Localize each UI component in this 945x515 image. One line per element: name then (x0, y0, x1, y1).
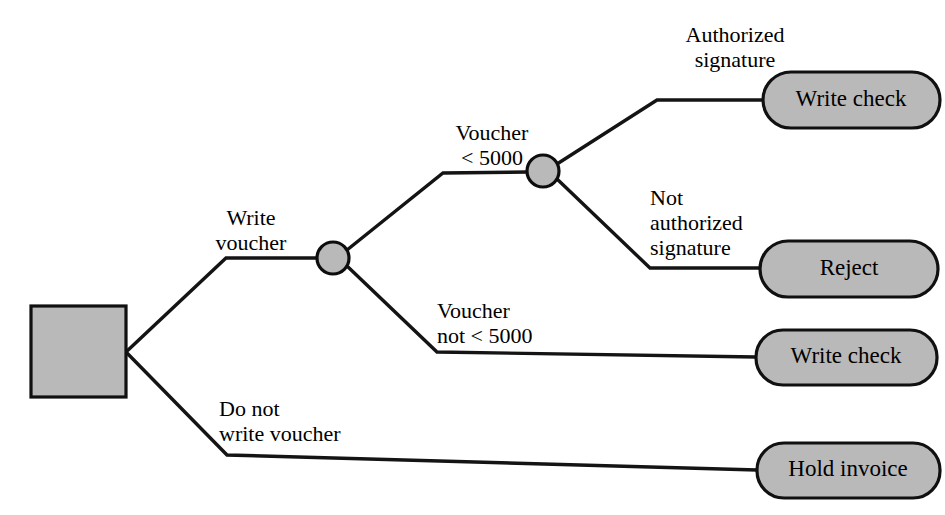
decision-tree-diagram: Write check Reject Write check Hold invo… (0, 0, 945, 515)
outcome-write-check-authorized[interactable]: Write check (763, 72, 940, 128)
outcome-hold-invoice-label: Hold invoice (788, 456, 907, 481)
edge-label-authorized-signature: Authorized signature (660, 22, 810, 72)
edge-label-not-authorized-signature: Not authorized signature (650, 185, 810, 260)
outcome-write-check-large-voucher-label: Write check (791, 343, 902, 368)
edge-label-voucher-less-than: Voucher < 5000 (432, 120, 552, 170)
outcome-write-check-authorized-label: Write check (796, 86, 907, 111)
edge-label-write-voucher: Write voucher (186, 205, 316, 255)
edge-label-do-not-write-voucher: Do not write voucher (219, 396, 429, 446)
outcome-write-check-large-voucher[interactable]: Write check (756, 330, 937, 385)
edge-authorized-signature (557, 100, 763, 164)
outcome-hold-invoice[interactable]: Hold invoice (757, 443, 940, 498)
edge-voucher-less-than (347, 172, 528, 250)
edge-root-to-voucher-decision (126, 258, 318, 352)
outcome-reject-label: Reject (820, 255, 879, 280)
edge-label-voucher-not-less-than: Voucher not < 5000 (437, 298, 627, 348)
decision-voucher-amount-circle[interactable] (317, 242, 349, 274)
root-decision-square[interactable] (31, 306, 126, 397)
